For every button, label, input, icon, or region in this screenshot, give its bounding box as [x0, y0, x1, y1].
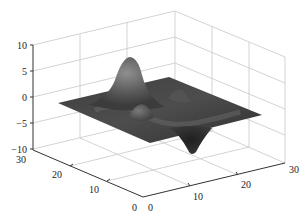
x-tick-0: 0 — [148, 202, 153, 213]
z-tick-10: 10 — [17, 40, 27, 51]
x-tick-20: 20 — [241, 179, 251, 190]
y-tick-20: 20 — [52, 169, 62, 180]
z-tick-5: 5 — [22, 66, 27, 77]
y-tick-10: 10 — [89, 184, 99, 195]
y-tick-0: 0 — [132, 202, 137, 213]
x-tick-30: 30 — [289, 164, 299, 175]
x-tick-10: 10 — [193, 191, 203, 202]
surface-plot: 10 5 0 −5 −10 30 20 10 0 0 10 20 30 — [0, 0, 307, 220]
z-tick-0: 0 — [22, 92, 27, 103]
z-tick-minus5: −5 — [16, 118, 27, 129]
y-tick-30: 30 — [16, 154, 26, 165]
